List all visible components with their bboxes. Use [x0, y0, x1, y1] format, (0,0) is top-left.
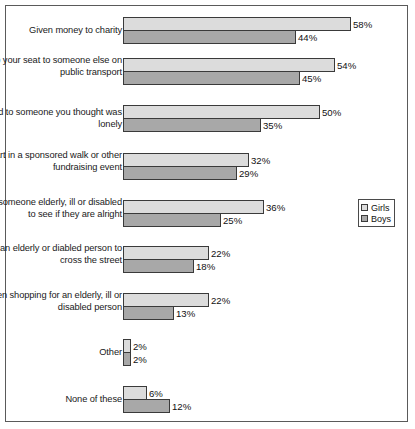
bar-value-boys: 12%	[172, 401, 191, 412]
bar-value-boys: 44%	[298, 32, 317, 43]
bar-girls: 36%	[123, 200, 264, 214]
bar-value-girls: 58%	[353, 19, 372, 30]
bar-group: 32% 29%	[123, 153, 249, 180]
bar-boys: 29%	[123, 166, 237, 180]
category-label: Helped an elderly or diabled person to c…	[0, 243, 122, 266]
bar-girls: 22%	[123, 293, 209, 307]
bar-value-boys: 13%	[176, 308, 195, 319]
bar-girls: 2%	[123, 339, 131, 353]
bar-value-boys: 45%	[302, 73, 321, 84]
bar-value-boys: 25%	[223, 215, 242, 226]
bar-boys: 18%	[123, 259, 194, 273]
bar-group: 58% 44%	[123, 17, 351, 44]
bar-group: 22% 18%	[123, 246, 209, 273]
bar-value-girls: 22%	[211, 295, 230, 306]
bar-boys: 2%	[123, 352, 131, 366]
bar-value-girls: 2%	[133, 341, 147, 352]
bar-value-boys: 2%	[133, 354, 147, 365]
bar-value-girls: 50%	[322, 107, 341, 118]
bar-girls: 22%	[123, 246, 209, 260]
legend-swatch-girls-icon	[361, 204, 368, 211]
bar-boys: 25%	[123, 213, 221, 227]
bar-value-girls: 6%	[149, 388, 163, 399]
bar-group: 54% 45%	[123, 58, 335, 85]
category-label: Visited someone elderly, ill or disabled…	[0, 197, 122, 220]
bar-boys: 12%	[123, 399, 170, 413]
bar-value-boys: 18%	[196, 261, 215, 272]
bar-group: 50% 35%	[123, 105, 320, 132]
category-label: Other	[0, 347, 122, 359]
plot-area: Given money to charity 58% 44% Given up …	[6, 6, 407, 421]
chart-legend: Girls Boys	[358, 199, 395, 227]
bar-boys: 45%	[123, 71, 300, 85]
bar-girls: 54%	[123, 58, 335, 72]
bar-girls: 58%	[123, 17, 351, 31]
legend-item-girls[interactable]: Girls	[361, 202, 391, 213]
bar-value-boys: 35%	[263, 120, 282, 131]
bar-boys: 35%	[123, 118, 261, 132]
bar-boys: 44%	[123, 30, 296, 44]
bar-girls: 6%	[123, 386, 147, 400]
category-label: Given up your seat to someone else on pu…	[0, 55, 122, 78]
bar-value-girls: 22%	[211, 248, 230, 259]
legend-label-girls: Girls	[371, 203, 390, 213]
category-label: None of these	[0, 394, 122, 406]
bar-group: 2% 2%	[123, 339, 131, 366]
category-label: Taken part in a sponsored walk or other …	[0, 150, 122, 173]
bar-value-girls: 36%	[266, 202, 285, 213]
legend-swatch-boys-icon	[361, 215, 368, 222]
bar-girls: 32%	[123, 153, 249, 167]
category-label: Given money to charity	[0, 25, 122, 37]
bar-value-boys: 29%	[239, 168, 258, 179]
category-label: Chatted to someone you thought was lonel…	[0, 107, 122, 130]
bar-group: 36% 25%	[123, 200, 264, 227]
bar-group: 22% 13%	[123, 293, 209, 320]
bar-value-girls: 54%	[337, 60, 356, 71]
chart-frame: Given money to charity 58% 44% Given up …	[5, 5, 408, 422]
bar-value-girls: 32%	[251, 155, 270, 166]
bar-group: 6% 12%	[123, 386, 170, 413]
bar-boys: 13%	[123, 306, 174, 320]
category-label: Been shopping for an elderly, ill or dis…	[0, 290, 122, 313]
legend-item-boys[interactable]: Boys	[361, 213, 391, 224]
legend-label-boys: Boys	[371, 214, 391, 224]
bar-girls: 50%	[123, 105, 320, 119]
